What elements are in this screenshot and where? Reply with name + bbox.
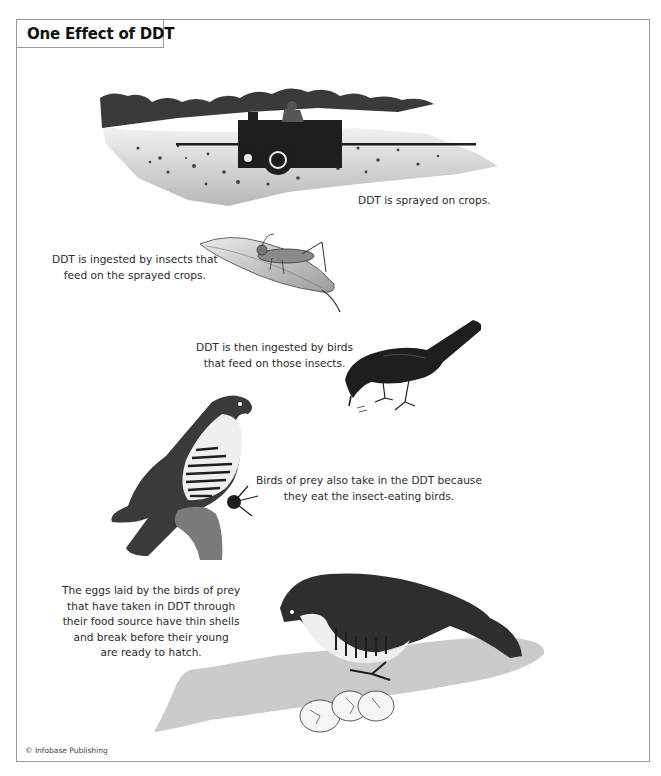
step-1-caption: DDT is sprayed on crops. — [358, 193, 491, 209]
step-3-caption: DDT is then ingested by birds that feed … — [196, 340, 353, 371]
copyright-credit: © Infobase Publishing — [25, 746, 108, 755]
grasshopper-on-leaf-illustration — [198, 232, 348, 314]
step-5-caption: The eggs laid by the birds of prey that … — [62, 583, 240, 661]
title-box: One Effect of DDT — [16, 19, 164, 48]
diagram-title: One Effect of DDT — [27, 25, 174, 43]
step-4-caption: Birds of prey also take in the DDT becau… — [256, 473, 482, 504]
step-2-caption: DDT is ingested by insects that feed on … — [52, 252, 218, 283]
falcon-perched-illustration — [108, 390, 268, 560]
blackbird-eating-insect-illustration — [343, 318, 487, 418]
tractor-spraying-field-illustration — [98, 88, 500, 210]
